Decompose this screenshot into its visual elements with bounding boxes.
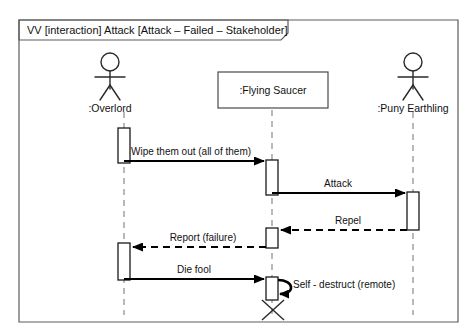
- actor-head-icon: [404, 53, 422, 71]
- lifeline-label-earthling: :Puny Earthling: [377, 102, 448, 114]
- sequence-diagram-canvas: Wipe them out (all of them) Attack Repel…: [0, 0, 472, 335]
- message-attack[interactable]: Attack: [272, 178, 405, 193]
- message-report-failure[interactable]: Report (failure): [133, 232, 266, 247]
- destruction-marker-icon: [262, 300, 284, 320]
- frame-label: VV [interaction] Attack [Attack – Failed…: [27, 24, 287, 36]
- activation-overlord-1: [118, 128, 130, 163]
- actor-leg-right-icon: [413, 85, 423, 100]
- message-label: Report (failure): [170, 232, 237, 243]
- self-message-loop: [278, 280, 291, 294]
- message-label: Wipe them out (all of them): [131, 146, 251, 157]
- activation-overlord-2: [118, 243, 130, 280]
- lifeline-label-saucer: :Flying Saucer: [239, 84, 307, 96]
- actor-leg-left-icon: [403, 85, 413, 100]
- activation-saucer-3: [266, 277, 278, 300]
- message-self-destruct[interactable]: Self - destruct (remote): [278, 279, 395, 294]
- message-repel[interactable]: Repel: [281, 215, 407, 230]
- lifeline-label-overlord: :Overlord: [88, 102, 131, 114]
- lifeline-head-earthling[interactable]: [398, 53, 428, 100]
- activation-saucer-2: [266, 228, 278, 248]
- activation-saucer-1: [266, 160, 278, 195]
- activation-earthling-1: [407, 192, 419, 230]
- message-label: Attack: [324, 178, 353, 189]
- message-label: Repel: [335, 215, 361, 226]
- actor-head-icon: [101, 53, 119, 71]
- actor-leg-right-icon: [110, 85, 120, 100]
- message-die-fool[interactable]: Die fool: [124, 264, 264, 279]
- message-label: Self - destruct (remote): [293, 279, 395, 290]
- interaction-frame: [19, 20, 458, 322]
- actor-leg-left-icon: [100, 85, 110, 100]
- message-wipe-them-out[interactable]: Wipe them out (all of them): [124, 146, 264, 161]
- lifeline-head-overlord[interactable]: [95, 53, 125, 100]
- message-label: Die fool: [177, 264, 211, 275]
